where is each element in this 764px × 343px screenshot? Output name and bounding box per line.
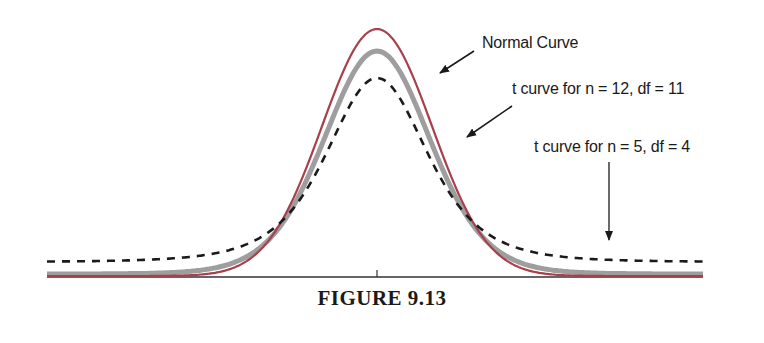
t12-curve-label: t curve for n = 12, df = 11	[512, 80, 684, 98]
figure-caption: FIGURE 9.13	[0, 286, 764, 311]
t12-arrow	[467, 106, 512, 137]
t5-curve	[47, 78, 703, 262]
normal-arrow	[440, 51, 474, 73]
normal-curve-label: Normal Curve	[482, 34, 578, 52]
t5-curve-label: t curve for n = 5, df = 4	[534, 138, 690, 156]
